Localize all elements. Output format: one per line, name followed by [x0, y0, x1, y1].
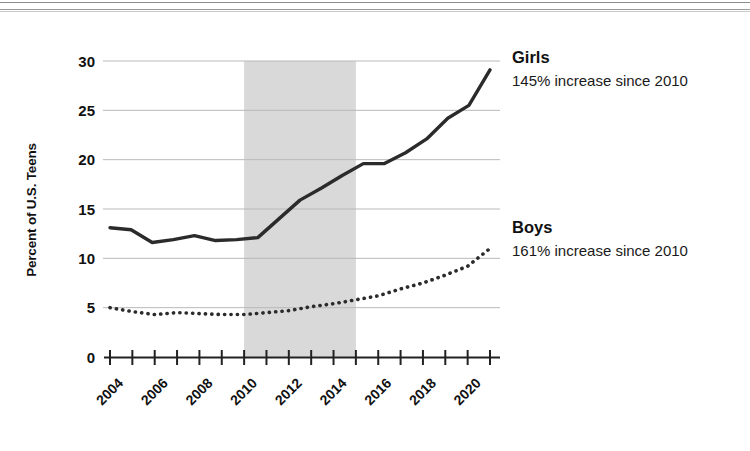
y-axis-tick-label: 5 [87, 299, 95, 316]
legend-note-boys: 161% increase since 2010 [512, 242, 688, 259]
y-axis-tick-label: 25 [78, 102, 95, 119]
y-axis-tick-label: 10 [78, 250, 95, 267]
x-axis-tick-label: 2006 [137, 375, 170, 408]
x-axis-tick-label: 2010 [227, 375, 260, 408]
y-axis-tick-labels: 051015202530 [78, 53, 95, 366]
y-axis-tick-label: 20 [78, 151, 95, 168]
y-axis-tick-label: 0 [87, 349, 95, 366]
x-axis-tick-label: 2008 [182, 375, 215, 408]
y-axis-title: Percent of U.S. Teens [24, 143, 39, 277]
legend-label-boys: Boys [512, 218, 552, 236]
y-axis-tick-label: 30 [78, 53, 95, 70]
line-chart: 051015202530 Percent of U.S. Teens 20042… [0, 0, 750, 451]
x-axis-tick-label: 2004 [93, 375, 126, 408]
x-axis-tick-label: 2014 [316, 375, 349, 408]
chart-figure: 051015202530 Percent of U.S. Teens 20042… [0, 0, 750, 451]
x-axis-tick-label: 2012 [272, 375, 305, 408]
x-axis-tick-labels: 200420062008201020122014201620182020 [93, 375, 484, 408]
x-axis-tick-label: 2020 [450, 375, 483, 408]
x-axis-tick-label: 2018 [406, 375, 439, 408]
legend-label-girls: Girls [512, 48, 550, 66]
legend-note-girls: 145% increase since 2010 [512, 72, 688, 89]
y-axis-tick-label: 15 [78, 201, 95, 218]
x-axis-tick-label: 2016 [361, 375, 394, 408]
